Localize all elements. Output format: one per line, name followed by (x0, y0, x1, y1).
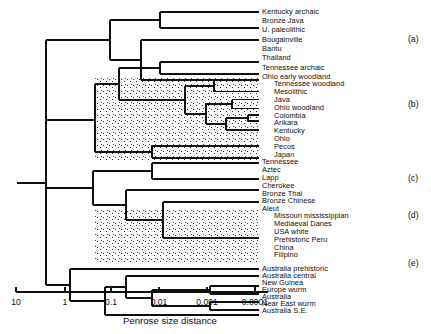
distance-axis (16, 287, 268, 292)
axis-tick-label-3: 0.01 (134, 298, 184, 307)
leaf-label: Kentucky archaic (262, 8, 319, 15)
axis-title: Penrose size distance (123, 316, 217, 326)
leaf-label: Thailand (262, 54, 291, 61)
leaf-label: Bougainville (262, 36, 302, 43)
dendrogram-plot (0, 0, 431, 334)
axis-tick-label-1: 1 (40, 298, 90, 307)
leaf-label: Pecos (274, 143, 295, 150)
axis-tick-label-0: 10 (0, 298, 41, 307)
shaded-box-d-inner1 (126, 210, 259, 246)
axis-tick-label-4: 0.001 (182, 298, 232, 307)
group-label-e: (e) (408, 259, 419, 268)
dendrogram-branches (17, 12, 259, 315)
leaf-label: Australia S.E. (262, 307, 307, 314)
leaf-label: Cherokee (262, 182, 294, 189)
leaf-label: Ohio woodland (274, 104, 324, 111)
shaded-cluster-boxes (95, 76, 259, 262)
group-label-d: (d) (408, 211, 419, 220)
group-label-b: (b) (408, 100, 419, 109)
leaf-label: Tennessee archaic (262, 64, 324, 71)
leaf-label: Bantu (262, 45, 282, 52)
group-label-c: (c) (408, 174, 418, 183)
figure-canvas: Kentucky archaicBronze JavaU. paleolithi… (0, 0, 431, 334)
leaf-label: U. paleolithic (262, 26, 305, 33)
leaf-label: Filipino (274, 251, 298, 258)
group-label-a: (a) (408, 35, 419, 44)
axis-tick-label-2: 0.1 (86, 298, 136, 307)
axis-tick-label-5: 0.0001 (230, 298, 280, 307)
leaf-label: Bronze Java (262, 17, 304, 24)
